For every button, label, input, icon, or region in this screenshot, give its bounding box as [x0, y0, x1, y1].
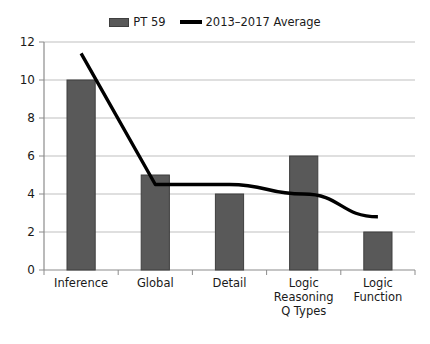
bar	[67, 80, 95, 270]
x-axis-label-global: Global	[118, 276, 192, 336]
x-axis-label-detail: Detail	[192, 276, 266, 336]
y-axis-tick-label: 12	[20, 35, 35, 49]
y-axis-tick-label: 4	[27, 187, 35, 201]
bar	[141, 175, 169, 270]
x-axis-label-logic-function: Logic Function	[341, 276, 415, 336]
y-axis-tick-label: 0	[27, 263, 35, 277]
bar	[290, 156, 318, 270]
bar-chart: PT 59 2013–2017 Average 024681012 Infere…	[0, 0, 430, 344]
y-axis-tick-label: 10	[20, 73, 35, 87]
x-axis-label-inference: Inference	[44, 276, 118, 336]
average-trend-line	[81, 53, 378, 216]
x-axis-label-logic-reasoning-q-types: Logic Reasoning Q Types	[267, 276, 341, 336]
bar	[215, 194, 243, 270]
y-axis-tick-label: 6	[27, 149, 35, 163]
y-axis-tick-label: 2	[27, 225, 35, 239]
y-axis-tick-label: 8	[27, 111, 35, 125]
x-axis-labels: Inference Global Detail Logic Reasoning …	[44, 276, 415, 336]
bar	[364, 232, 392, 270]
